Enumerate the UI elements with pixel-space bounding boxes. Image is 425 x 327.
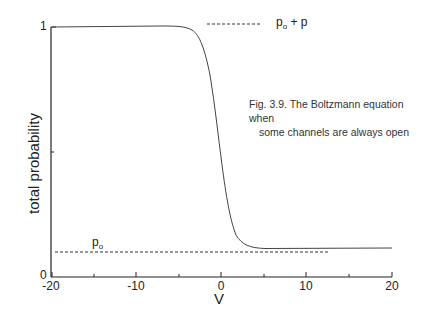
y-tick-1: 1: [40, 19, 47, 33]
x-tick-20: 20: [385, 279, 398, 293]
x-tick-neg10: -10: [127, 279, 144, 293]
p0-plus-p-annotation: po + p: [276, 15, 308, 31]
p0-annotation: po: [92, 235, 103, 251]
x-tick-neg20: -20: [42, 279, 59, 293]
figure-caption: Fig. 3.9. The Boltzmann equation when so…: [249, 97, 425, 139]
y-axis-label: total probability: [25, 109, 42, 219]
caption-line-2: some channels are always open: [249, 125, 425, 139]
chart-canvas: [0, 0, 425, 327]
x-axis-label: V: [214, 290, 224, 307]
caption-line-1: Fig. 3.9. The Boltzmann equation when: [249, 97, 425, 125]
x-tick-10: 10: [299, 279, 312, 293]
x-ticks: [52, 272, 392, 277]
